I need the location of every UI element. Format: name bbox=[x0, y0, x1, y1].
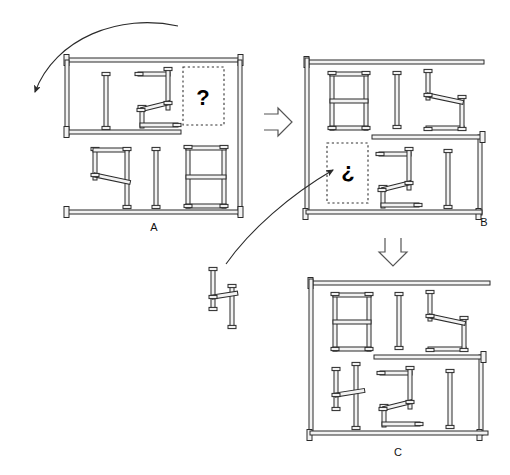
panel-b-label: B bbox=[480, 216, 487, 228]
panel-a-rod-1 bbox=[102, 72, 110, 129]
inverted-question-mark-glyph: ¿ bbox=[341, 158, 354, 183]
panel-a-assembly-chair bbox=[91, 147, 131, 208]
panel-a-label: A bbox=[150, 221, 158, 233]
step-arrow-a-to-b bbox=[264, 108, 292, 136]
panel-c-rod-1 bbox=[395, 292, 403, 349]
panel-b-assembly-chair bbox=[424, 69, 466, 130]
panel-c-assembly-chair bbox=[426, 290, 468, 351]
panel-b-rod-2 bbox=[444, 149, 452, 208]
panel-a-assembly-ladder bbox=[184, 145, 228, 208]
panel-a: ? bbox=[64, 55, 243, 234]
panel-c-label: C bbox=[394, 446, 402, 458]
panel-c-inserted-piece bbox=[332, 362, 365, 429]
panel-b-assembly-2 bbox=[376, 147, 422, 208]
question-mark-glyph: ? bbox=[196, 85, 209, 110]
step-arrow-b-to-c bbox=[379, 238, 407, 266]
panel-c: C bbox=[307, 278, 490, 459]
panel-a-rod-2 bbox=[152, 147, 160, 208]
panel-b: ¿ B bbox=[303, 57, 488, 229]
panel-c-assembly-2 bbox=[377, 366, 423, 427]
panel-b-rod-1 bbox=[393, 71, 401, 128]
panel-b-assembly-ladder bbox=[328, 71, 370, 130]
figure-canvas: .rod { fill:#f2f2f2; stroke:#2b2b2b; str… bbox=[0, 0, 510, 475]
panel-c-rod-2 bbox=[446, 369, 454, 428]
diagram-svg: .rod { fill:#f2f2f2; stroke:#2b2b2b; str… bbox=[0, 0, 510, 475]
panel-c-assembly-ladder bbox=[331, 292, 373, 351]
panel-b-placeholder: ¿ bbox=[327, 143, 368, 203]
loose-piece-h-shape bbox=[209, 267, 238, 328]
panel-a-placeholder: ? bbox=[183, 67, 224, 125]
panel-a-assembly-2 bbox=[135, 67, 181, 128]
